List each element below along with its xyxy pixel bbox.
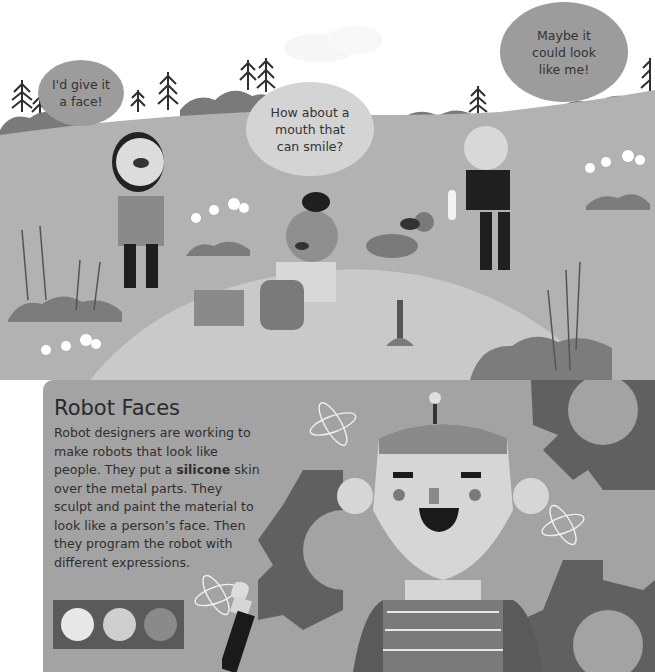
robot-eye xyxy=(393,472,413,478)
bubble-line: mouth that xyxy=(271,121,350,138)
speech-bubble-boy: How about a mouth that can smile? xyxy=(246,82,374,176)
bubble-line: Maybe it xyxy=(532,27,596,44)
paint-palette xyxy=(53,600,184,649)
body-keyword: silicone xyxy=(176,462,230,477)
bubble-line: How about a xyxy=(271,104,350,121)
info-title: Robot Faces xyxy=(54,396,180,420)
atom-icon xyxy=(540,502,587,548)
bubble-line: could look xyxy=(532,44,596,61)
bubble-line: like me! xyxy=(532,61,596,78)
body-text: skin over the metal parts. They sculpt a… xyxy=(54,462,260,570)
gear-icon xyxy=(521,560,655,672)
paint-swatch-2 xyxy=(103,608,136,641)
gear-icon xyxy=(531,380,655,490)
paint-swatch-3 xyxy=(144,608,177,641)
bubble-line: I'd give it xyxy=(52,76,110,93)
paint-swatch-1 xyxy=(61,608,94,641)
speech-bubble-girl: I'd give it a face! xyxy=(38,60,124,126)
info-body: Robot designers are working to make robo… xyxy=(54,424,264,572)
bubble-line: a face! xyxy=(52,93,110,110)
bubble-line: can smile? xyxy=(271,138,350,155)
paintbrush-icon xyxy=(222,582,262,672)
speech-bubble-ponytail-girl: Maybe it could look like me! xyxy=(500,2,628,102)
atom-icon xyxy=(308,399,359,449)
robot-eye xyxy=(461,472,481,478)
